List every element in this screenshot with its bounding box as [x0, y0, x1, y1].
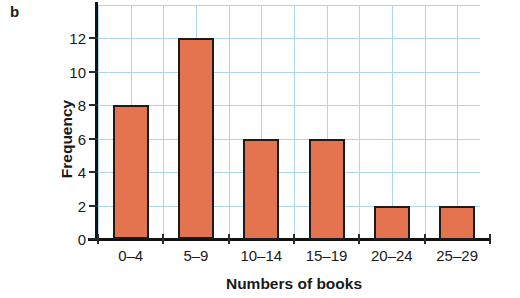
y-axis-tick-label: 2 [50, 199, 86, 214]
gridline-horizontal [98, 5, 480, 6]
gridline-vertical [457, 5, 458, 239]
y-axis-tick [89, 138, 98, 140]
bar [309, 139, 345, 240]
bar [178, 38, 214, 239]
gridline-horizontal [98, 206, 480, 207]
gridline-vertical [359, 5, 360, 239]
bar [374, 206, 410, 240]
gridline-horizontal [98, 72, 480, 73]
histogram-figure: b Frequency 024681012 0–45–910–1415–1920… [0, 0, 520, 298]
y-axis-tick-label: 0 [50, 232, 86, 247]
x-axis-title: Numbers of books [98, 275, 490, 293]
bar [439, 206, 475, 240]
gridline-horizontal [98, 105, 480, 106]
gridline-horizontal [98, 38, 480, 39]
x-axis-tick [358, 234, 360, 244]
y-axis-tick [89, 205, 98, 207]
gridline-vertical [229, 5, 230, 239]
x-axis-tick-label: 25–29 [417, 248, 497, 263]
gridline-vertical [163, 5, 164, 239]
bar [243, 139, 279, 240]
x-axis-tick [162, 234, 164, 244]
y-axis-tick-label: 4 [50, 165, 86, 180]
plot-area [98, 5, 480, 239]
x-axis-tick [293, 234, 295, 244]
bar [113, 105, 149, 239]
x-axis-tick [489, 234, 491, 244]
y-axis-tick-label: 6 [50, 132, 86, 147]
x-axis-tick [228, 234, 230, 244]
gridline-vertical [392, 5, 393, 239]
gridline-horizontal [98, 172, 480, 173]
y-axis-tick [89, 104, 98, 106]
x-axis-tick [424, 234, 426, 244]
gridline-vertical [98, 5, 99, 239]
gridline-vertical [425, 5, 426, 239]
gridline-vertical [294, 5, 295, 239]
part-label: b [10, 4, 19, 19]
y-axis-tick-label: 12 [50, 31, 86, 46]
gridline-horizontal [98, 139, 480, 140]
y-axis-tick [89, 37, 98, 39]
y-axis-tick [89, 71, 98, 73]
x-axis-tick [97, 234, 99, 244]
y-axis-tick [89, 171, 98, 173]
y-axis-tick-label: 8 [50, 98, 86, 113]
y-axis-tick-label: 10 [50, 65, 86, 80]
